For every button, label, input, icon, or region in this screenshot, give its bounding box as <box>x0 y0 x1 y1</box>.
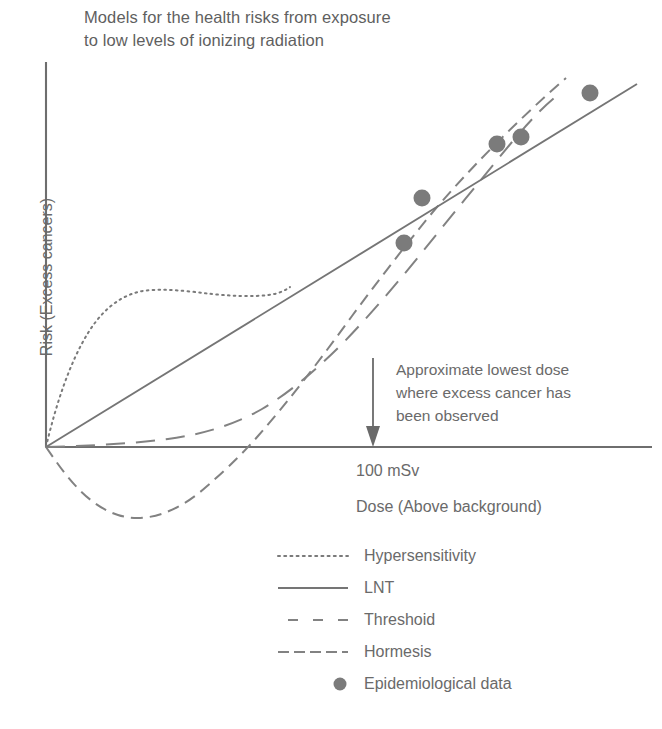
legend-item-hormesis: Hormesis <box>276 636 656 668</box>
curve-hormesis <box>46 78 566 518</box>
x-axis-label: Dose (Above background) <box>356 498 542 516</box>
y-axis-label: Risk (Excess cancers) <box>38 167 56 387</box>
legend-swatch-long-dash-line <box>276 642 354 662</box>
legend-label: Threshoid <box>354 611 435 629</box>
data-point <box>513 129 530 146</box>
scatter-series-epidemiological-data <box>396 85 599 252</box>
annotation-arrow-icon <box>366 358 380 447</box>
legend-label: Hormesis <box>354 643 432 661</box>
chart-legend: Hypersensitivity LNT Threshoid <box>276 540 656 700</box>
legend-item-lnt: LNT <box>276 572 656 604</box>
data-point <box>396 235 413 252</box>
annotation-text: Approximate lowest dose where excess can… <box>396 358 646 427</box>
data-point <box>582 85 599 102</box>
legend-item-threshoid: Threshoid <box>276 604 656 636</box>
legend-swatch-dashed-line <box>276 610 354 630</box>
curve-hypersensitivity <box>46 287 290 447</box>
chart-figure: Models for the health risks from exposur… <box>0 0 662 729</box>
legend-label: LNT <box>354 579 394 597</box>
data-point <box>414 190 431 207</box>
legend-item-hypersensitivity: Hypersensitivity <box>276 540 656 572</box>
legend-swatch-circle-marker <box>276 674 354 694</box>
legend-label: Epidemiological data <box>354 675 512 693</box>
data-point <box>489 136 506 153</box>
legend-swatch-solid-line <box>276 578 354 598</box>
legend-label: Hypersensitivity <box>354 547 476 565</box>
x-axis-tick-100msv: 100 mSv <box>356 462 419 480</box>
legend-item-epidemiological-data: Epidemiological data <box>276 668 656 700</box>
legend-swatch-dotted-line <box>276 546 354 566</box>
